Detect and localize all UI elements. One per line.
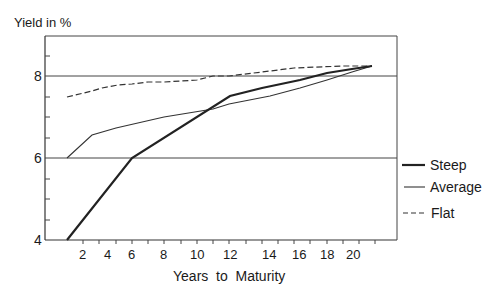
series-average [67,66,372,158]
svg-text:18: 18 [320,247,334,262]
y-tick-labels: 4 6 8 [34,68,42,248]
svg-text:4: 4 [34,232,42,248]
yield-curve-chart: Yield in % 4 6 8 [0,0,496,298]
svg-text:8: 8 [160,247,167,262]
series-steep [67,66,372,240]
x-axis-ticks [83,240,375,244]
legend-item-average: Average [404,179,482,195]
series-flat [67,66,372,97]
legend-item-steep: Steep [402,157,467,173]
y-axis-ticks [45,56,50,220]
svg-text:6: 6 [34,150,42,166]
legend: Steep Average Flat [402,157,482,221]
svg-text:6: 6 [128,247,135,262]
svg-text:8: 8 [34,68,42,84]
svg-text:4: 4 [104,247,111,262]
svg-text:Average: Average [430,179,482,195]
svg-text:10: 10 [190,247,204,262]
x-axis-label: Years to Maturity [173,268,285,284]
svg-text:2: 2 [79,247,86,262]
legend-item-flat: Flat [403,205,454,221]
svg-text:Flat: Flat [431,205,454,221]
svg-text:14: 14 [262,247,276,262]
svg-text:20: 20 [346,247,360,262]
x-tick-labels: 2 4 6 8 10 12 14 16 18 20 [79,247,360,262]
y-axis-label: Yield in % [14,15,72,30]
svg-text:Steep: Steep [430,157,467,173]
gridlines [45,76,397,158]
svg-text:16: 16 [292,247,306,262]
svg-text:12: 12 [223,247,237,262]
